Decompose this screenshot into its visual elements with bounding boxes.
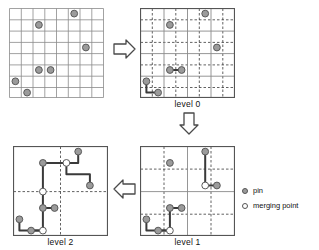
legend-label-pin: pin [253,187,263,195]
arrow-input-to-level0 [113,38,137,60]
pin [202,148,209,155]
grid-lines-solid [141,9,235,98]
panel-level1 [140,146,235,236]
legend-item-merging-point: merging point [242,200,298,212]
pin [71,10,78,17]
pin [83,44,90,51]
grid-lines-solid [141,147,235,236]
legend-item-pin: pin [242,185,298,197]
grid-lines-solid [10,9,104,98]
routes [146,152,217,231]
merging-point-marker-icon [242,203,248,209]
pin [40,160,47,167]
pin [167,22,174,29]
panel-level0 [140,8,235,98]
merging-point [40,227,47,234]
merging-points [40,160,70,235]
caption-level1: level 1 [140,237,235,247]
level2-svg [13,146,108,236]
pin [143,216,150,223]
pin [47,67,54,74]
pin [167,160,174,167]
caption-level0: level 0 [140,99,235,109]
pin [214,182,221,189]
pin-marker-icon [242,188,248,194]
pin [178,67,185,74]
pins [12,10,89,96]
pins [143,10,220,96]
legend-label-merging-point: merging point [253,202,298,210]
route [43,163,55,208]
grid-lines-dashed [14,147,108,236]
pin [75,148,82,155]
pin [167,67,174,74]
legend: pin merging point [242,185,298,215]
input-grid-svg [9,8,104,98]
level1-svg [140,146,235,236]
pin [28,227,35,234]
merging-point [167,227,174,234]
arrow-right-icon [113,38,137,60]
merging-point [63,160,70,167]
pin [143,78,150,85]
pin [202,10,209,17]
pins [143,148,220,234]
panel-border [14,147,108,236]
pins [16,148,93,234]
pin [155,227,162,234]
pin [87,182,94,189]
pin [36,67,43,74]
panel-level2 [13,146,108,236]
level0-svg [140,8,235,98]
pin [40,205,47,212]
merging-point [202,182,209,189]
arrow-left-icon [112,178,136,200]
arrow-down-icon [178,112,200,136]
pin [178,205,185,212]
pin [36,22,43,29]
merging-point [40,188,47,195]
pin [51,205,58,212]
pin [214,44,221,51]
panel-input-grid [9,8,104,98]
arrow-level0-to-level1 [178,112,200,136]
routes [19,152,90,231]
arrow-level1-to-level2 [112,178,136,200]
route [66,163,90,186]
pin [155,89,162,96]
caption-level2: level 2 [13,237,108,247]
pin [167,205,174,212]
pin [12,78,19,85]
pin [24,89,31,96]
pin [16,216,23,223]
